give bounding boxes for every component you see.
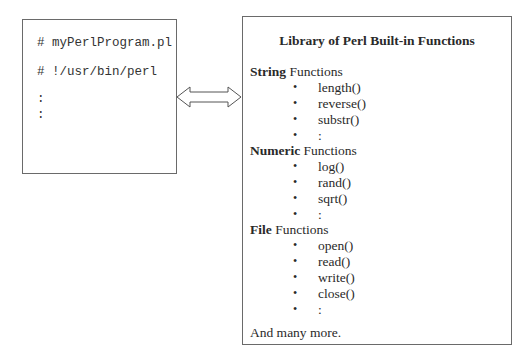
double-arrow-icon — [176, 85, 243, 109]
perl-library-box: Library of Perl Built-in Functions Strin… — [242, 16, 512, 345]
perl-program-box: # myPerlProgram.pl # !/usr/bin/perl : : — [22, 19, 177, 174]
program-line-shebang: # !/usr/bin/perl — [37, 65, 157, 79]
program-line-ellipsis: : — [37, 92, 45, 106]
section-numeric-heading: Numeric Functions — [250, 143, 357, 159]
library-footer: And many more. — [250, 325, 341, 341]
section-string-heading: String Functions — [250, 64, 343, 80]
program-line-filename: # myPerlProgram.pl — [37, 36, 172, 50]
section-file-heading: File Functions — [250, 222, 328, 238]
library-title: Library of Perl Built-in Functions — [243, 33, 511, 49]
program-line-ellipsis: : — [37, 108, 45, 122]
